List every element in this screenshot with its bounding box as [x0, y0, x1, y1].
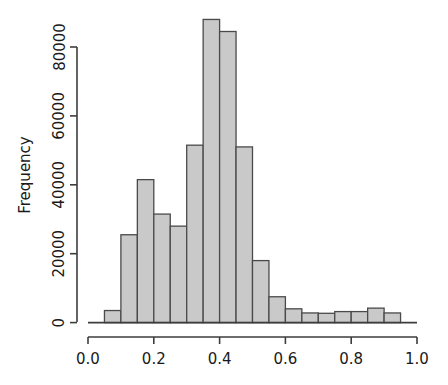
y-axis-title: Frequency: [16, 136, 34, 214]
histogram-bar: [318, 313, 334, 322]
x-tick-label: 0.0: [76, 350, 100, 368]
y-tick-label: 80000: [51, 23, 69, 71]
x-tick-label: 0.2: [142, 350, 166, 368]
x-tick-label: 0.8: [339, 350, 363, 368]
histogram-bar: [154, 214, 170, 323]
y-tick-label: 0: [51, 318, 69, 328]
histogram-bar: [170, 226, 186, 322]
x-tick-label: 0.6: [273, 350, 297, 368]
histogram-bar: [220, 32, 236, 323]
y-tick-label: 20000: [51, 230, 69, 278]
histogram-bar: [351, 312, 367, 323]
histogram-figure: Frequency 020000400006000080000 0.00.20.…: [0, 0, 448, 385]
y-tick-label: 40000: [51, 161, 69, 209]
histogram-bar: [203, 19, 219, 322]
histogram-bar: [384, 313, 400, 323]
histogram-bar: [368, 308, 384, 322]
histogram-bar: [137, 180, 153, 323]
x-tick-label: 0.4: [208, 350, 232, 368]
y-tick-label: 60000: [51, 92, 69, 140]
histogram-bar: [187, 145, 203, 322]
histogram-bar: [253, 261, 269, 323]
histogram-bar: [236, 147, 252, 323]
histogram-svg: Frequency 020000400006000080000 0.00.20.…: [0, 0, 448, 385]
histogram-bar: [104, 311, 120, 323]
histogram-bar: [121, 235, 137, 323]
histogram-bar: [302, 313, 318, 323]
histogram-bar: [285, 309, 301, 323]
histogram-bar: [335, 312, 351, 323]
x-tick-label: 1.0: [405, 350, 429, 368]
histogram-bar: [269, 297, 285, 323]
